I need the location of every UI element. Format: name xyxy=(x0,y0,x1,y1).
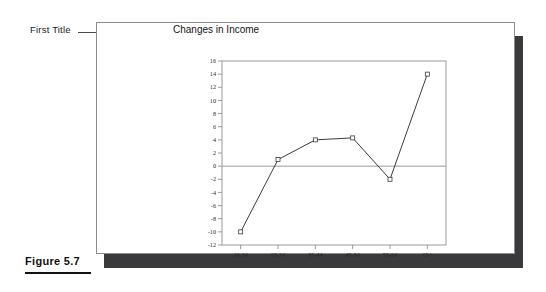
svg-text:0: 0 xyxy=(213,162,216,169)
data-point-marker xyxy=(351,136,355,140)
svg-text:-2: -2 xyxy=(211,175,216,182)
svg-text:8: 8 xyxy=(213,110,216,117)
svg-text:65+: 65+ xyxy=(422,251,432,258)
svg-text:14: 14 xyxy=(210,70,216,77)
svg-text:6: 6 xyxy=(213,123,216,130)
svg-text:-6: -6 xyxy=(211,202,216,209)
svg-text:10: 10 xyxy=(210,97,216,104)
svg-text:12: 12 xyxy=(210,83,216,90)
chart-svg: 1614121086420-2-4-6-8-10-12 16-2425-3435… xyxy=(196,57,452,267)
data-point-marker xyxy=(276,158,280,162)
svg-text:35-44: 35-44 xyxy=(308,251,322,258)
svg-text:4: 4 xyxy=(213,136,216,143)
svg-text:45-54: 45-54 xyxy=(345,251,359,258)
series-line xyxy=(241,74,428,232)
svg-text:16: 16 xyxy=(210,57,216,64)
series-markers xyxy=(239,72,430,234)
figure-caption-rule xyxy=(25,272,91,274)
data-point-marker xyxy=(313,138,317,142)
svg-text:-12: -12 xyxy=(208,241,216,248)
callout-label: First Title xyxy=(30,24,71,35)
svg-text:55-64: 55-64 xyxy=(383,251,397,258)
svg-text:-8: -8 xyxy=(211,215,216,222)
chart-title: Changes in Income xyxy=(173,24,259,35)
svg-text:2: 2 xyxy=(213,149,216,156)
data-point-marker xyxy=(388,177,392,181)
svg-text:-4: -4 xyxy=(211,189,216,196)
data-point-marker xyxy=(239,230,243,234)
svg-text:25-34: 25-34 xyxy=(271,251,285,258)
y-axis-ticks: 1614121086420-2-4-6-8-10-12 xyxy=(208,57,222,248)
svg-text:-10: -10 xyxy=(208,228,216,235)
x-axis-ticks: 16-2425-3435-4445-5455-6465+ xyxy=(233,245,432,258)
svg-text:16-24: 16-24 xyxy=(233,251,247,258)
line-chart: 1614121086420-2-4-6-8-10-12 16-2425-3435… xyxy=(196,57,452,267)
plot-frame xyxy=(222,61,446,245)
figure-caption: Figure 5.7 xyxy=(25,255,80,267)
data-point-marker xyxy=(425,72,429,76)
